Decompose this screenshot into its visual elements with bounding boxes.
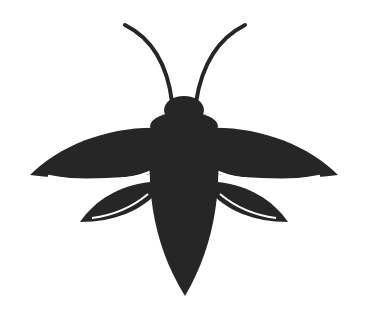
- abdomen: [150, 132, 219, 296]
- left-upper-wing: [30, 128, 162, 179]
- firefly-illustration: [0, 0, 369, 318]
- right-lower-wing: [213, 182, 288, 222]
- right-upper-wing: [206, 128, 338, 179]
- left-antenna: [125, 25, 172, 102]
- left-lower-wing: [80, 182, 155, 222]
- right-antenna: [196, 25, 245, 102]
- firefly-icon: [0, 0, 369, 318]
